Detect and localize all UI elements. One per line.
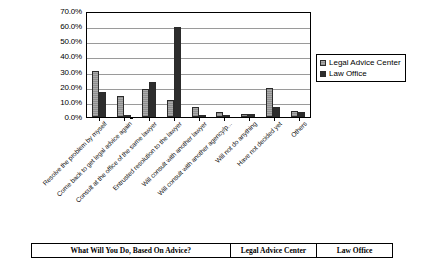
bar — [149, 82, 156, 117]
bar-group — [186, 13, 211, 117]
bar — [192, 107, 199, 117]
x-axis-tick-mark — [249, 118, 250, 121]
data-table: What Will You Do, Based On Advice? Legal… — [31, 243, 393, 258]
legend-item-label: Law Office — [329, 69, 367, 78]
x-axis-tick-mark — [224, 118, 225, 121]
x-axis-tick-mark — [274, 118, 275, 121]
bar-group — [112, 13, 137, 117]
table-header-row: What Will You Do, Based On Advice? Legal… — [32, 244, 393, 258]
bar-group — [137, 13, 162, 117]
x-axis-tick-mark — [99, 118, 100, 121]
bar — [248, 114, 255, 117]
chart-legend: Legal Advice Center Law Office — [316, 54, 406, 82]
bar — [266, 88, 273, 117]
y-axis-tick-label: 20.0% — [60, 84, 82, 92]
bar — [117, 96, 124, 117]
bar — [167, 100, 174, 117]
y-axis-tick-mark — [130, 118, 133, 119]
bar — [291, 111, 298, 118]
bar — [241, 114, 248, 117]
y-axis-tick-label: 70.0% — [60, 8, 82, 16]
y-axis-tick-label: 40.0% — [60, 53, 82, 61]
x-axis-tick-label: Have not decided yet — [235, 120, 283, 168]
bar — [216, 112, 223, 117]
bar-series-container — [87, 13, 310, 117]
x-axis-tick-mark — [299, 118, 300, 121]
legend-swatch-icon — [320, 71, 326, 77]
table-header-question: What Will You Do, Based On Advice? — [32, 244, 231, 258]
y-axis-tick-label: 30.0% — [60, 69, 82, 77]
legend-item-legal-advice-center: Legal Advice Center — [320, 58, 401, 67]
bar — [142, 89, 149, 117]
x-axis-tick-mark — [124, 118, 125, 121]
x-axis-tick-mark — [199, 118, 200, 121]
bar — [298, 112, 305, 117]
plot-area — [86, 12, 311, 118]
legend-item-law-office: Law Office — [320, 69, 401, 78]
bar — [174, 27, 181, 117]
bar-group — [285, 13, 310, 117]
y-axis-tick-label: 50.0% — [60, 38, 82, 46]
bar — [99, 92, 106, 117]
bar-group — [236, 13, 261, 117]
bar-group — [211, 13, 236, 117]
y-axis-tick-label: 10.0% — [60, 99, 82, 107]
bar — [273, 107, 280, 117]
bar — [199, 115, 206, 117]
x-axis-tick-mark — [149, 118, 150, 121]
bar — [92, 71, 99, 117]
y-axis-tick-label: 60.0% — [60, 23, 82, 31]
legend-swatch-icon — [320, 60, 326, 66]
bar-chart-figure: 70.0%60.0%50.0%40.0%30.0%20.0%10.0%0.0% … — [0, 0, 423, 258]
y-axis-tick-label: 0.0% — [65, 114, 82, 122]
legend-item-label: Legal Advice Center — [329, 58, 401, 67]
bar — [124, 115, 131, 117]
bar-group — [260, 13, 285, 117]
table-header-law-office: Law Office — [317, 244, 393, 258]
y-axis: 70.0%60.0%50.0%40.0%30.0%20.0%10.0%0.0% — [46, 12, 84, 118]
x-axis-tick-mark — [174, 118, 175, 121]
table-header-legal-advice-center: Legal Advice Center — [230, 244, 317, 258]
bar-group — [87, 13, 112, 117]
x-axis-tick-label: Others — [289, 120, 308, 139]
bar — [223, 115, 230, 117]
bar-group — [161, 13, 186, 117]
